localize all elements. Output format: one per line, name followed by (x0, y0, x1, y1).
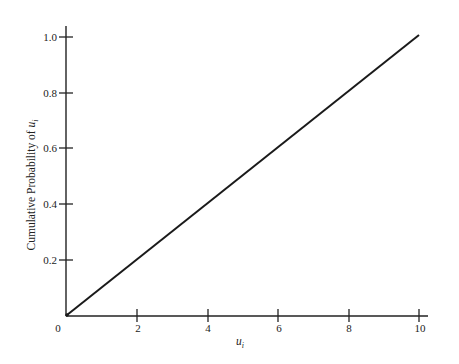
y-tick-label: 1.0 (43, 31, 57, 43)
origin-point (65, 313, 69, 317)
chart: 1.0 0.8 0.6 0.4 0.2 0 2 4 6 8 10 ui Cumu… (0, 0, 459, 364)
x-tick-labels: 0 2 4 6 8 10 (55, 322, 426, 334)
x-tick-label: 10 (415, 322, 427, 334)
origin-label: 0 (55, 322, 61, 334)
x-tick-label: 2 (135, 322, 141, 334)
y-tick-label: 0.8 (43, 87, 57, 99)
cdf-line (67, 35, 419, 315)
y-tick-label: 0.2 (43, 254, 57, 266)
y-tick-labels: 1.0 0.8 0.6 0.4 0.2 (43, 31, 57, 266)
x-axis-label: ui (236, 335, 244, 350)
x-tick-label: 8 (346, 322, 352, 334)
y-axis-label: Cumulative Probability of ui (25, 120, 40, 251)
y-tick-label: 0.4 (43, 198, 57, 210)
x-tick-label: 6 (276, 322, 282, 334)
y-tick-label: 0.6 (43, 142, 57, 154)
x-tick-label: 4 (205, 322, 211, 334)
